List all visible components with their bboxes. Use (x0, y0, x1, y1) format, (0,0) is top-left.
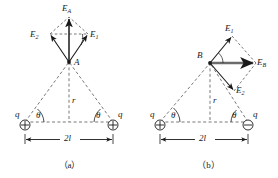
diagram-panel-a: EA E2 E1 A r θ θ q q 2l （a） (0, 0, 139, 178)
label-theta-right-a: θ (96, 111, 100, 120)
label-r-b: r (213, 96, 217, 105)
charge-right-b (243, 120, 253, 130)
vector-E2-b (210, 63, 233, 90)
label-E2: E2 (30, 30, 39, 39)
label-EA: EA (62, 4, 71, 13)
figure-root: EA E2 E1 A r θ θ q q 2l （a） (0, 0, 278, 178)
label-E1: E1 (90, 30, 99, 39)
label-2l-b: 2l (199, 134, 206, 143)
label-E1-b: E1 (225, 24, 234, 33)
caption-panel-b: （b） (139, 158, 278, 171)
panel-a-canvas (0, 0, 139, 178)
angle-arc-b (219, 53, 224, 63)
charge-left-a (20, 120, 30, 130)
label-EB: EB (257, 58, 266, 67)
caption-panel-a: （a） (0, 158, 139, 171)
label-charge-right-b: q (253, 110, 258, 119)
label-theta-left-b: θ (171, 111, 175, 120)
label-point-B: B (197, 51, 203, 60)
label-point-A: A (74, 58, 80, 67)
label-theta-left-a: θ (36, 111, 40, 120)
label-2l-a: 2l (64, 134, 71, 143)
label-charge-left-b: q (150, 110, 155, 119)
label-charge-left-a: q (15, 110, 20, 119)
label-r-a: r (72, 96, 76, 105)
charge-right-a (108, 120, 118, 130)
label-E2-b: E2 (236, 86, 245, 95)
charge-left-b (155, 120, 165, 130)
point-A-marker (67, 60, 71, 64)
label-charge-right-a: q (118, 110, 123, 119)
label-theta-right-b: θ (232, 111, 236, 120)
diagram-panel-b: E1 EB E2 B r θ θ q q 2l （b） (139, 0, 278, 178)
panel-b-canvas (139, 0, 278, 178)
vector-E2 (51, 36, 69, 63)
vector-E1-b (210, 38, 231, 64)
point-B-marker (208, 61, 212, 65)
